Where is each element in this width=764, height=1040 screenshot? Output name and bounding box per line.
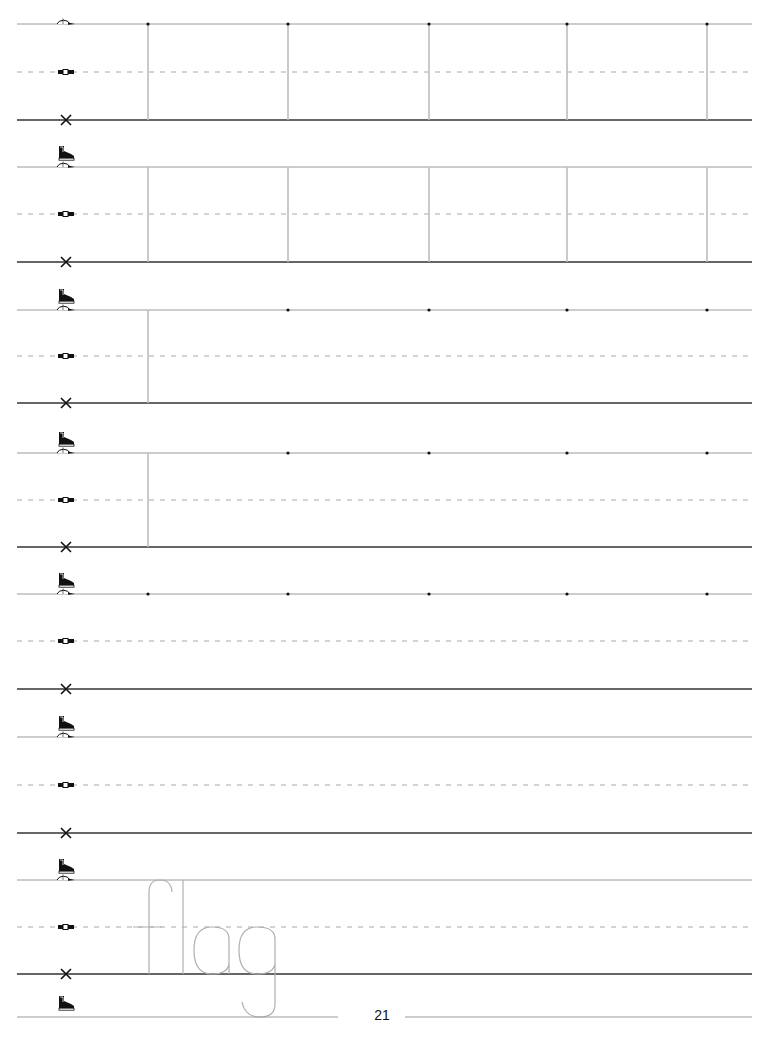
start-dot xyxy=(565,22,568,25)
start-dot xyxy=(286,592,289,595)
page-number: 21 xyxy=(372,1007,392,1023)
start-dot xyxy=(565,451,568,454)
cap-icon xyxy=(57,448,75,454)
shoe-icon xyxy=(59,146,74,160)
start-dot xyxy=(705,592,708,595)
cap-icon xyxy=(57,19,75,25)
shoe-icon xyxy=(59,859,74,873)
shoe-icon xyxy=(59,432,74,446)
shoe-icon xyxy=(59,716,74,730)
start-dot xyxy=(146,22,149,25)
belt-icon xyxy=(58,639,74,644)
cap-icon xyxy=(57,305,75,311)
trace-letter-a xyxy=(194,927,229,974)
start-dot xyxy=(286,308,289,311)
start-dot xyxy=(146,592,149,595)
cap-icon xyxy=(57,875,75,881)
shoe-icon xyxy=(59,573,74,587)
start-dot xyxy=(705,308,708,311)
start-dot xyxy=(427,451,430,454)
cap-icon xyxy=(57,732,75,738)
start-dot xyxy=(565,592,568,595)
trace-letter-g xyxy=(239,927,275,1017)
belt-icon xyxy=(58,212,74,217)
start-dot xyxy=(705,451,708,454)
start-dot xyxy=(565,308,568,311)
start-dot xyxy=(427,22,430,25)
shoe-icon xyxy=(59,289,74,303)
cap-icon xyxy=(57,162,75,168)
belt-icon xyxy=(58,70,74,75)
start-dot xyxy=(286,22,289,25)
start-dot xyxy=(427,592,430,595)
belt-icon xyxy=(58,925,74,930)
shoe-icon xyxy=(59,996,74,1010)
start-dot xyxy=(705,22,708,25)
handwriting-sheet: 21 xyxy=(0,0,764,1040)
belt-icon xyxy=(58,783,74,788)
start-dot xyxy=(427,308,430,311)
trace-letter-f xyxy=(133,880,172,974)
ruled-lines xyxy=(0,0,764,1040)
start-dot xyxy=(286,451,289,454)
belt-icon xyxy=(58,498,74,503)
trace-word-flag xyxy=(133,880,275,1017)
belt-icon xyxy=(58,354,74,359)
cap-icon xyxy=(57,589,75,595)
